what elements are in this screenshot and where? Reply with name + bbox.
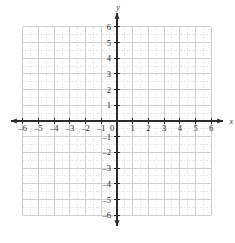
svg-text:3: 3: [107, 69, 111, 79]
svg-text:3: 3: [162, 123, 166, 133]
svg-text:5: 5: [107, 38, 111, 48]
svg-text:6: 6: [209, 123, 213, 133]
svg-text:1: 1: [131, 123, 135, 133]
svg-text:2: 2: [146, 123, 150, 133]
svg-text:–5: –5: [102, 195, 112, 205]
coordinate-grid-svg: –6–5–4–3–2–10123456–6–5–4–3–2–1123456 x …: [0, 0, 235, 243]
svg-text:–5: –5: [33, 123, 43, 133]
coordinate-plane: –6–5–4–3–2–10123456–6–5–4–3–2–1123456 x …: [0, 0, 235, 243]
svg-text:6: 6: [107, 22, 111, 32]
svg-text:–2: –2: [80, 123, 90, 133]
svg-text:–6: –6: [18, 123, 28, 133]
y-axis-label: y: [115, 3, 120, 12]
svg-text:–4: –4: [49, 123, 59, 133]
svg-text:–6: –6: [102, 210, 112, 220]
svg-text:2: 2: [107, 85, 111, 95]
svg-text:5: 5: [193, 123, 197, 133]
svg-text:4: 4: [178, 123, 183, 133]
svg-text:–4: –4: [102, 179, 112, 189]
axis-lines: [11, 13, 223, 226]
svg-text:–3: –3: [102, 163, 112, 173]
svg-text:–2: –2: [102, 147, 112, 157]
x-axis-label: x: [228, 117, 233, 126]
svg-text:–1: –1: [102, 132, 112, 142]
svg-text:1: 1: [107, 100, 111, 110]
svg-text:–3: –3: [65, 123, 75, 133]
